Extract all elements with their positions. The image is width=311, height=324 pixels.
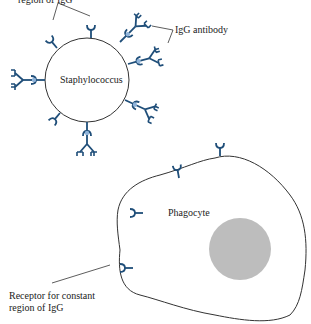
label-igg-antibody: IgG antibody xyxy=(175,24,228,35)
nucleus xyxy=(209,218,271,280)
label-top-region: region of IgG xyxy=(18,0,72,5)
label-receptor-line2: region of IgG xyxy=(9,302,63,313)
label-receptor-line1: Receptor for constant xyxy=(9,290,95,301)
label-staphylococcus: Staphylococcus xyxy=(60,74,123,85)
label-phagocyte: Phagocyte xyxy=(168,207,210,218)
diagram-canvas xyxy=(0,0,311,324)
